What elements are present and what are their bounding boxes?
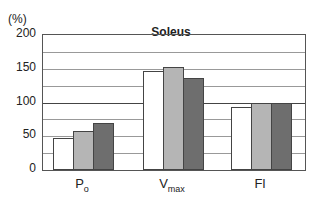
bar-vmax-series-1	[143, 71, 164, 170]
bar-fl-series-1	[231, 107, 252, 170]
y-tick-label: 200	[0, 26, 36, 40]
y-tick-label: 150	[0, 60, 36, 74]
y-tick-label: 0	[0, 161, 36, 175]
y-tick-label: 100	[0, 94, 36, 108]
y-tick-label: 50	[0, 127, 36, 141]
bar-vmax-series-2	[163, 67, 184, 170]
x-tick-label: Fl	[230, 176, 290, 191]
bar-po-series-2	[73, 131, 94, 170]
x-tick-label: Po	[52, 176, 112, 194]
x-tick-label: Vmax	[142, 176, 202, 194]
plot-area	[42, 34, 306, 171]
y-axis-unit-label: (%)	[8, 12, 27, 26]
bar-po-series-3	[93, 123, 114, 170]
bar-vmax-series-3	[183, 78, 204, 170]
gridline	[43, 52, 305, 53]
bar-fl-series-3	[271, 103, 292, 171]
bar-po-series-1	[53, 138, 74, 170]
bar-fl-series-2	[251, 103, 272, 171]
